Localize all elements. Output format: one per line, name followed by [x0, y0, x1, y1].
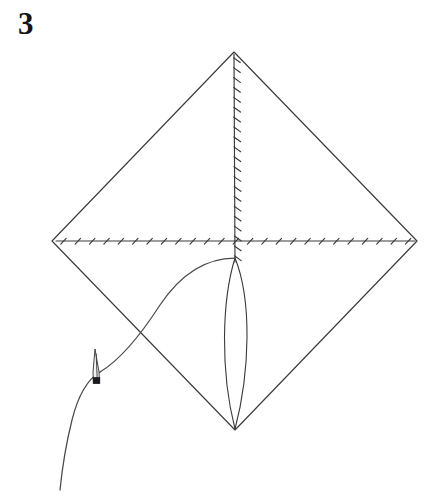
figure-root: 3 — [0, 0, 430, 499]
thread-arc-path — [100, 258, 235, 372]
thread-tail-path — [60, 372, 100, 490]
leaf-left-curve — [224, 258, 235, 429]
horizontal-guide-line — [56, 238, 415, 244]
vertical-guide-line — [234, 54, 242, 262]
leaf-right-curve — [235, 258, 247, 429]
stitch-diagram-svg — [0, 0, 430, 499]
needle-eye — [93, 378, 100, 384]
leaf-lens-stitch — [224, 258, 247, 429]
working-thread — [60, 258, 235, 490]
sewing-needle-icon — [93, 349, 100, 384]
